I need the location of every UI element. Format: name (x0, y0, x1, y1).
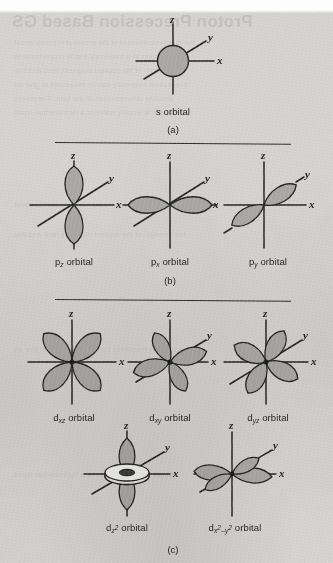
caption-text: s orbital (156, 106, 190, 117)
axis-label-z: z (68, 307, 74, 319)
axis-label-x: x (278, 467, 285, 479)
axis-label-y: y (301, 329, 308, 341)
section-label-a: (a) (118, 124, 228, 135)
orbital-diagram-pz: z x y (22, 160, 126, 250)
section-label-text: (b) (164, 275, 176, 286)
caption-s-orbital: s orbital (118, 106, 228, 117)
axis-label-x: x (310, 355, 317, 367)
caption-text: orbital (259, 412, 288, 423)
axis-label-x: x (216, 54, 223, 66)
axis-label-z: z (169, 13, 175, 25)
axis-label-z: z (260, 149, 266, 161)
caption-text: orbital (258, 256, 287, 267)
axis-label-y: y (206, 31, 213, 43)
orbital-nucleus (167, 359, 172, 364)
caption-text: orbital (64, 256, 93, 267)
axis-label-y: y (271, 439, 278, 451)
axis-label-y: y (205, 329, 212, 341)
orbital-diagram-dz2: z x y (72, 428, 182, 520)
caption-text: orbital (161, 412, 190, 423)
section-label-c: (c) (118, 544, 228, 555)
caption-pz-orbital: pz orbital (22, 256, 126, 268)
caption-text: orbital (160, 256, 189, 267)
section-label-text: (a) (167, 124, 179, 135)
orbital-nucleus (263, 359, 268, 364)
orbital-subscript: z2 (111, 527, 118, 534)
caption-dxz-orbital: dxz orbital (22, 412, 126, 424)
orbital-diagram-dyz: z x y (216, 316, 320, 408)
axis-label-z: z (166, 307, 172, 319)
orbital-diagram-dx2y2: z x y (180, 428, 290, 520)
section-label-b: (b) (118, 275, 222, 286)
caption-text: orbital (232, 522, 261, 533)
orbital-diagram-py: z x y (216, 160, 320, 250)
axis-label-y: y (107, 172, 114, 184)
divider-rule-1 (55, 142, 291, 145)
caption-text: orbital (65, 412, 94, 423)
caption-dxy-orbital: dxy orbital (118, 412, 222, 424)
s-orbital-sphere (158, 46, 189, 77)
orbital-diagram-px: z x y (118, 160, 222, 250)
axis-label-x: x (308, 198, 315, 210)
axis-label-z: z (262, 307, 268, 319)
axis-label-z: z (166, 149, 172, 161)
axis-label-z: z (123, 419, 129, 431)
orbital-diagram-dxy: z x y (118, 316, 222, 408)
axis-line-y (296, 177, 304, 182)
section-label-text: (c) (167, 544, 178, 555)
orbital-lobe (260, 179, 300, 212)
orbital-lobe (228, 199, 268, 232)
orbital-figure: Proton Precession Based GS the magnetic … (0, 0, 333, 563)
caption-dz2-orbital: dz2 orbital (72, 522, 182, 534)
caption-dx2y2-orbital: dx2–y2 orbital (180, 522, 290, 534)
orbital-nucleus (230, 472, 235, 477)
caption-px-orbital: px orbital (118, 256, 222, 268)
orbital-torus (105, 464, 149, 485)
orbital-lobe (128, 197, 170, 214)
axis-label-y: y (203, 172, 210, 184)
orbital-nucleus (69, 359, 74, 364)
orbital-diagram-dxz: z x (22, 316, 126, 408)
caption-py-orbital: py orbital (216, 256, 320, 268)
divider-rule-2 (55, 299, 291, 302)
axis-line-y (224, 228, 232, 233)
paper-top-edge (0, 0, 333, 13)
axis-label-y: y (163, 441, 170, 453)
orbital-subscript: x2–y2 (214, 527, 232, 534)
axis-label-z: z (70, 149, 76, 161)
axis-label-z: z (228, 419, 234, 431)
axis-label-y: y (303, 168, 310, 180)
orbital-lobe (65, 205, 83, 244)
axis-label-x: x (172, 467, 179, 479)
orbital-diagram-s: z x y (118, 16, 228, 108)
caption-text: orbital (119, 522, 148, 533)
